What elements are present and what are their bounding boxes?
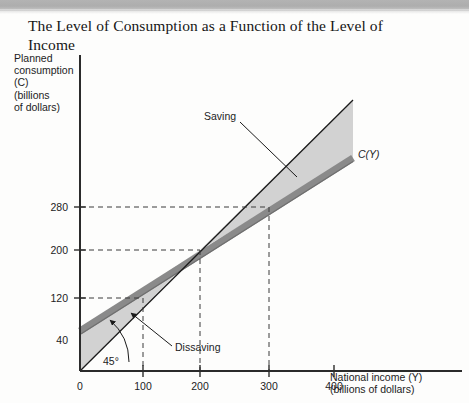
- consumption-function-line-edge: [80, 162, 353, 335]
- y-tick-label-40: 40: [34, 334, 68, 346]
- consumption-function-line: [80, 158, 353, 331]
- dissaving-leader-line: [131, 313, 172, 346]
- saving-leader-line: [240, 122, 297, 177]
- annotation-dissaving: Dissaving: [175, 341, 221, 353]
- y-axis-label: Planned consumption (C) (billions of dol…: [14, 52, 80, 113]
- forty-five-degree-line: [80, 100, 353, 371]
- annotation-angle: 45°: [103, 355, 119, 367]
- annotation-consumption-curve: C(Y): [358, 148, 380, 160]
- x-tick-label-300: 300: [252, 380, 286, 392]
- y-tick-label-120: 120: [34, 292, 68, 304]
- x-tick-label-0: 0: [63, 380, 97, 392]
- figure-container: The Level of Consumption as a Function o…: [0, 0, 469, 403]
- annotation-saving: Saving: [204, 110, 236, 122]
- x-tick-label-200: 200: [183, 380, 217, 392]
- y-tick-label-200: 200: [34, 244, 68, 256]
- x-tick-label-400: 400: [317, 380, 351, 392]
- x-tick-label-100: 100: [126, 380, 160, 392]
- y-tick-label-280: 280: [34, 201, 68, 213]
